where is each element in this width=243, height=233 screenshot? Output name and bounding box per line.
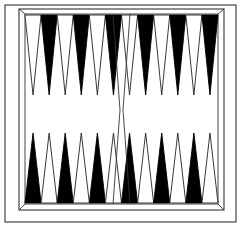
point-21 xyxy=(154,15,170,95)
point-15 xyxy=(57,15,73,95)
point-1 xyxy=(202,133,218,203)
point-20 xyxy=(138,15,154,95)
point-14 xyxy=(41,15,57,95)
backgammon-board: Backgammon board xyxy=(0,0,243,233)
bottom-points xyxy=(25,133,218,203)
point-9 xyxy=(73,133,89,203)
point-22 xyxy=(170,15,186,95)
point-13 xyxy=(25,15,41,95)
point-10 xyxy=(57,133,73,203)
point-12 xyxy=(25,133,41,203)
top-points xyxy=(25,15,218,95)
point-16 xyxy=(73,15,89,95)
point-19 xyxy=(122,15,138,95)
point-11 xyxy=(41,133,57,203)
point-17 xyxy=(89,15,105,95)
point-24 xyxy=(202,15,218,95)
point-8 xyxy=(89,133,105,203)
point-3 xyxy=(170,133,186,203)
point-23 xyxy=(186,15,202,95)
point-2 xyxy=(186,133,202,203)
board-drawing xyxy=(0,0,243,233)
point-4 xyxy=(154,133,170,203)
point-18 xyxy=(105,15,121,95)
point-5 xyxy=(138,133,154,203)
